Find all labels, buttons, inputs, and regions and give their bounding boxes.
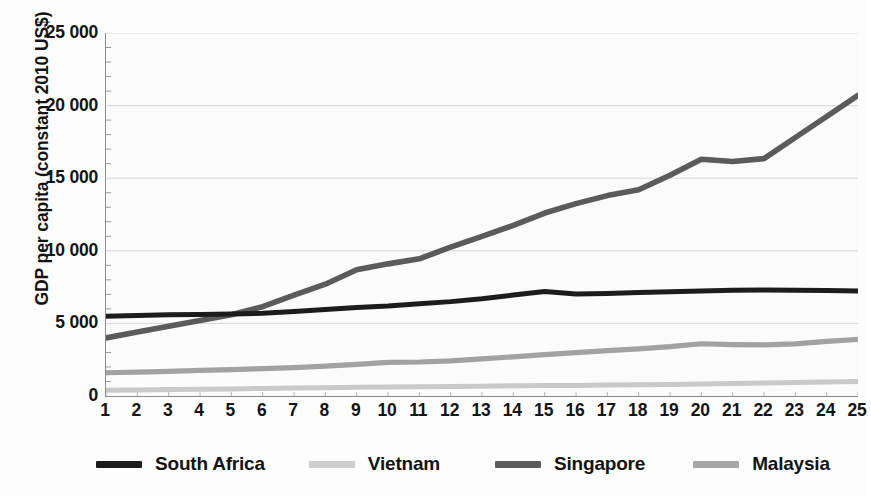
x-axis-tick-label: 8 bbox=[309, 400, 339, 421]
legend-item-label: Malaysia bbox=[752, 453, 830, 475]
x-axis-tick-label: 5 bbox=[215, 400, 245, 421]
legend-item-label: South Africa bbox=[155, 453, 265, 475]
x-axis-tick-labels: 1234567891011121314151617181920212223242… bbox=[105, 400, 857, 428]
series-line-malaysia bbox=[106, 339, 858, 372]
x-axis-tick-label: 13 bbox=[466, 400, 496, 421]
legend-item-south-africa[interactable]: South Africa bbox=[96, 453, 265, 475]
x-axis-tick-label: 15 bbox=[529, 400, 559, 421]
x-axis-tick-label: 16 bbox=[560, 400, 590, 421]
legend-swatch-icon bbox=[309, 461, 355, 468]
plot-area bbox=[105, 33, 858, 397]
x-axis-tick-label: 10 bbox=[372, 400, 402, 421]
x-axis-tick-label: 23 bbox=[779, 400, 809, 421]
x-axis-tick-label: 24 bbox=[811, 400, 841, 421]
y-axis-tick-label: 15 000 bbox=[2, 167, 98, 188]
x-axis-tick-label: 20 bbox=[685, 400, 715, 421]
x-axis-tick-label: 1 bbox=[90, 400, 120, 421]
x-axis-tick-label: 6 bbox=[247, 400, 277, 421]
legend-swatch-icon bbox=[495, 461, 541, 468]
x-axis-tick-label: 22 bbox=[748, 400, 778, 421]
legend-swatch-icon bbox=[693, 461, 739, 468]
series-line-singapore bbox=[106, 95, 858, 337]
x-axis-tick-label: 4 bbox=[184, 400, 214, 421]
series-line-vietnam bbox=[106, 381, 858, 390]
x-axis-tick-label: 18 bbox=[623, 400, 653, 421]
legend-item-vietnam[interactable]: Vietnam bbox=[309, 453, 440, 475]
x-axis-tick-label: 7 bbox=[278, 400, 308, 421]
legend-item-singapore[interactable]: Singapore bbox=[495, 453, 645, 475]
legend-swatch-icon bbox=[96, 461, 142, 468]
x-axis-tick-label: 25 bbox=[842, 400, 871, 421]
y-axis-tick-labels: 05 00010 00015 00020 00025 000 bbox=[0, 0, 98, 496]
x-axis-tick-label: 14 bbox=[497, 400, 527, 421]
legend-item-label: Singapore bbox=[554, 453, 645, 475]
x-axis-tick-label: 19 bbox=[654, 400, 684, 421]
y-axis-tick-label: 20 000 bbox=[2, 95, 98, 116]
x-axis-tick-label: 2 bbox=[121, 400, 151, 421]
chart-lines bbox=[106, 33, 858, 396]
chart-legend: South AfricaVietnamSingaporeMalaysia bbox=[96, 447, 856, 481]
legend-item-malaysia[interactable]: Malaysia bbox=[693, 453, 830, 475]
y-axis-tick-label: 10 000 bbox=[2, 240, 98, 261]
x-axis-tick-label: 3 bbox=[153, 400, 183, 421]
x-axis-tick-label: 21 bbox=[717, 400, 747, 421]
x-axis-tick-label: 12 bbox=[435, 400, 465, 421]
y-axis-tick-label: 0 bbox=[2, 385, 98, 406]
x-axis-tick-label: 11 bbox=[403, 400, 433, 421]
legend-item-label: Vietnam bbox=[368, 453, 440, 475]
y-axis-tick-label: 25 000 bbox=[2, 22, 98, 43]
x-axis-tick-label: 17 bbox=[591, 400, 621, 421]
x-axis-tick-label: 9 bbox=[341, 400, 371, 421]
series-line-south-africa bbox=[106, 290, 858, 316]
y-axis-tick-label: 5 000 bbox=[2, 312, 98, 333]
